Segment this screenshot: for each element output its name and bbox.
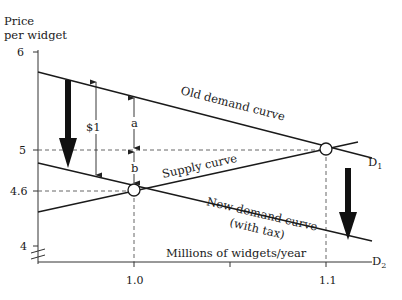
y-tick-6: 6 <box>17 46 24 59</box>
demand-shift-arrow-left <box>59 80 77 168</box>
old-equilibrium-point <box>320 143 332 155</box>
demand-shift-arrow-right <box>339 168 357 240</box>
tax-incidence-diagram: Price per widget 6 5 4.6 4 1.0 1.1 Milli… <box>0 0 402 300</box>
y-tick-4: 4 <box>20 240 27 253</box>
y-axis-label-2: per widget <box>4 28 67 42</box>
new-demand-curve <box>38 163 372 241</box>
old-demand-label: Old demand curve <box>179 83 286 123</box>
x-axis <box>38 262 372 267</box>
y-tick-5: 5 <box>19 144 26 157</box>
tax-1-label: $1 <box>86 120 101 134</box>
new-equilibrium-point <box>128 184 140 196</box>
d1-label: D1 <box>368 155 382 171</box>
d2-label: D2 <box>372 254 386 270</box>
y-tick-4-6: 4.6 <box>10 185 28 198</box>
b-label: b <box>131 161 138 175</box>
a-label: a <box>131 116 138 130</box>
x-axis-label: Millions of widgets/year <box>166 246 307 260</box>
y-axis-label: Price <box>4 14 34 28</box>
y-axis <box>31 50 45 264</box>
x-tick-1-1: 1.1 <box>319 274 337 287</box>
x-tick-1-0: 1.0 <box>126 274 144 287</box>
supply-curve <box>38 142 358 212</box>
